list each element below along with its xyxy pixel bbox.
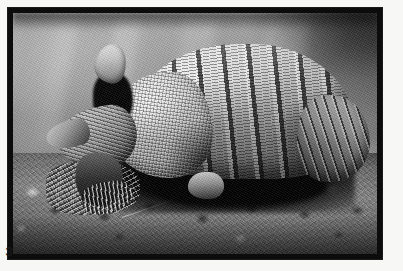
figure-page: 3 bbox=[0, 0, 403, 271]
figure-number-label: 3 bbox=[2, 243, 16, 261]
photograph bbox=[13, 13, 377, 254]
armadillo-hindfoot bbox=[188, 172, 224, 199]
photo-frame bbox=[8, 8, 382, 259]
armadillo bbox=[13, 13, 377, 254]
hip-bands bbox=[297, 95, 370, 182]
armadillo-hip bbox=[297, 95, 370, 182]
